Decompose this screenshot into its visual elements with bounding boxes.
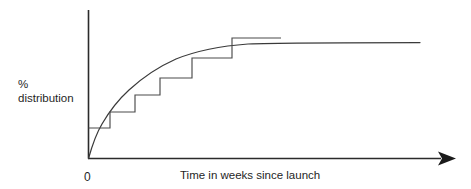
y-axis-label-line1: % [18, 78, 28, 90]
y-axis-label-line2: distribution [18, 92, 74, 104]
distribution-chart: % distribution 0 Time in weeks since lau… [0, 0, 471, 189]
x-axis-label: Time in weeks since launch [180, 169, 320, 181]
origin-label: 0 [84, 170, 91, 184]
